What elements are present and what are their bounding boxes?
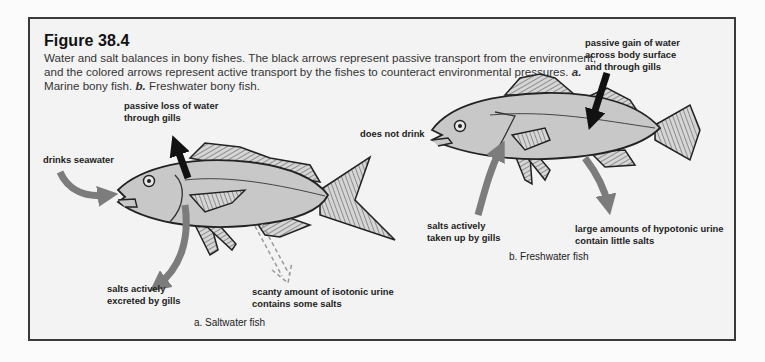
label-salts-taken-up: salts actively taken up by gills [427,220,500,244]
label-passive-loss: passive loss of water through gills [124,100,218,124]
salts-taken-arrow-icon [478,150,500,215]
drinks-arrow-icon [60,172,108,196]
subtitle-freshwater-fish: b. Freshwater fish [509,251,588,262]
label-isotonic-urine: scanty amount of isotonic urine contains… [252,286,394,310]
label-drinks-seawater: drinks seawater [43,154,114,166]
label-passive-gain: passive gain of water across body surfac… [585,37,680,73]
freshwater-fish-icon [432,74,700,184]
subtitle-saltwater-fish: a. Saltwater fish [194,317,265,328]
saltwater-fish-icon [118,143,395,255]
label-hypotonic-urine: large amounts of hypotonic urine contain… [575,223,723,247]
label-salts-excreted: salts actively excreted by gills [107,283,180,307]
label-does-not-drink: does not drink [360,128,425,140]
